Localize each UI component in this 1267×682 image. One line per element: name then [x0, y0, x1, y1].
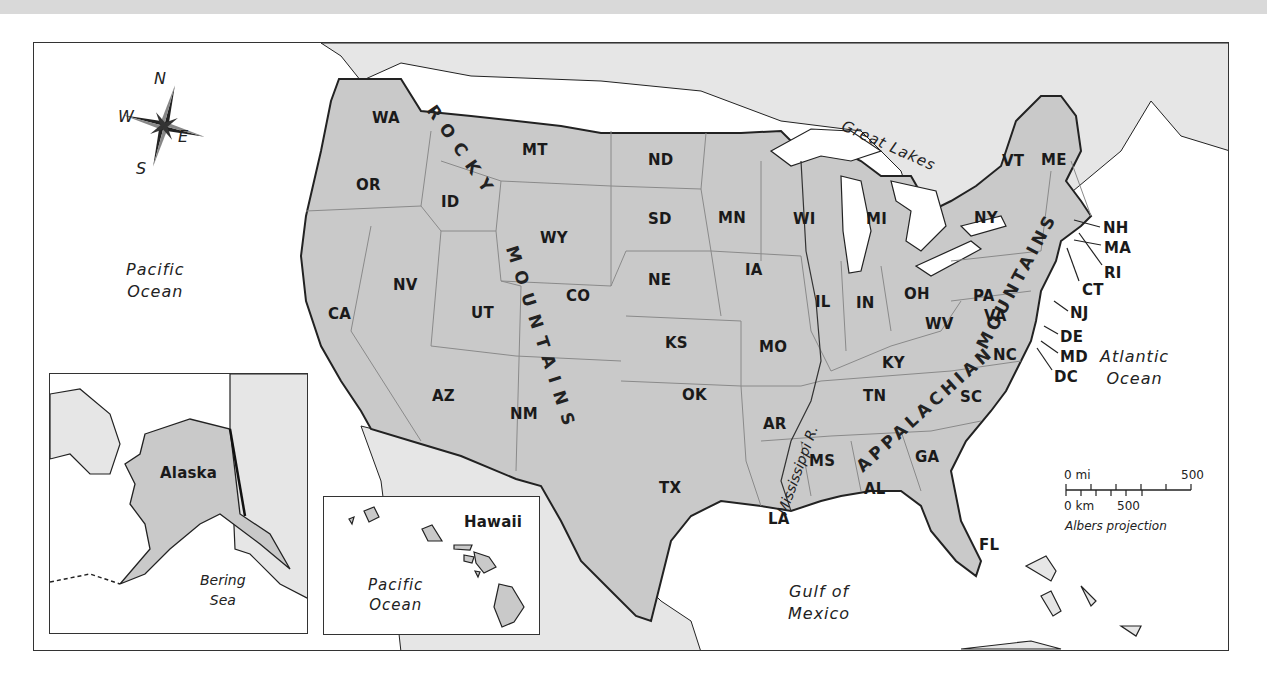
- projection-label: Albers projection: [1065, 519, 1167, 533]
- scale-miles-end: 500: [1181, 468, 1204, 482]
- alaska-inset: Alaska BeringSea: [49, 373, 308, 634]
- scale-km-start: 0 km: [1064, 499, 1094, 513]
- scale-km-mid: 500: [1117, 499, 1140, 513]
- scale-miles-start: 0 mi: [1064, 468, 1090, 482]
- hawaii-pacific-ocean-label: PacificOcean: [368, 575, 423, 615]
- scale-bar: [1064, 483, 1194, 497]
- bering-sea-label: BeringSea: [200, 570, 246, 610]
- hawaii-label: Hawaii: [464, 513, 522, 531]
- top-band: [0, 0, 1267, 14]
- map-frame: N E S W PacificOcean AtlanticOcean Gulf …: [33, 42, 1229, 651]
- hawaii-inset: Hawaii PacificOcean: [323, 496, 540, 635]
- alaska-label: Alaska: [160, 464, 217, 482]
